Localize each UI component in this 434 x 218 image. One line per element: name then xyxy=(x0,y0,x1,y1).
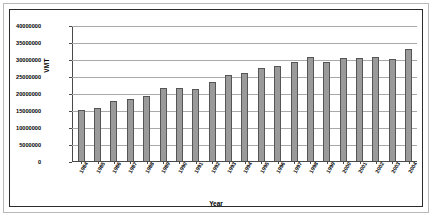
bar xyxy=(127,99,134,161)
bar-slot xyxy=(253,26,269,161)
bar xyxy=(225,75,232,161)
bar-slot xyxy=(188,26,204,161)
x-tick-label: 1988 xyxy=(144,161,155,174)
y-tick-label: 5000000 xyxy=(0,142,41,148)
bar-slot xyxy=(351,26,367,161)
bar-slot xyxy=(270,26,286,161)
bar-slot xyxy=(286,26,302,161)
x-axis-tick-labels: 1984198519861987198819891990199119921993… xyxy=(73,164,418,198)
bar xyxy=(241,73,248,161)
y-tick-label: 40000000 xyxy=(0,23,41,29)
bar xyxy=(356,58,363,161)
x-tick-label: 1985 xyxy=(95,161,106,174)
bar-slot xyxy=(139,26,155,161)
x-label-slot: 1986 xyxy=(106,164,122,198)
y-tick-mark xyxy=(69,128,72,129)
bar xyxy=(176,88,183,161)
bar-series xyxy=(73,26,417,161)
bar xyxy=(209,82,216,161)
bar-slot xyxy=(204,26,220,161)
bar xyxy=(372,57,379,161)
y-tick-mark xyxy=(69,162,72,163)
bar-slot xyxy=(302,26,318,161)
bar-slot xyxy=(171,26,187,161)
bar-slot xyxy=(155,26,171,161)
bar xyxy=(340,58,347,161)
x-label-slot: 2001 xyxy=(352,164,368,198)
x-label-slot: 1984 xyxy=(73,164,89,198)
bar-slot xyxy=(106,26,122,161)
bar xyxy=(258,68,265,161)
y-tick-mark xyxy=(69,94,72,95)
x-label-slot: 1993 xyxy=(221,164,237,198)
bar xyxy=(389,59,396,161)
bar-slot xyxy=(220,26,236,161)
x-label-slot: 1990 xyxy=(172,164,188,198)
bar xyxy=(307,57,314,161)
y-tick-label: 30000000 xyxy=(0,57,41,63)
x-tick-label: 1989 xyxy=(160,161,171,174)
bar-slot xyxy=(401,26,417,161)
bar-slot xyxy=(319,26,335,161)
bar-slot xyxy=(73,26,89,161)
y-tick-label: 10000000 xyxy=(0,125,41,131)
x-label-slot: 2003 xyxy=(385,164,401,198)
x-label-slot: 1991 xyxy=(188,164,204,198)
chart-outer-frame: VMT 400000003500000030000000250000002000… xyxy=(3,3,429,213)
y-tick-mark xyxy=(69,145,72,146)
bar xyxy=(405,49,412,161)
y-tick-mark xyxy=(69,77,72,78)
bar-slot xyxy=(237,26,253,161)
x-label-slot: 2004 xyxy=(401,164,417,198)
bar-slot xyxy=(335,26,351,161)
y-tick-mark xyxy=(69,60,72,61)
x-tick-label: 1986 xyxy=(111,161,122,174)
x-tick-label: 1990 xyxy=(177,161,188,174)
x-tick-label: 1984 xyxy=(78,161,89,174)
bar xyxy=(94,108,101,161)
bar-slot xyxy=(368,26,384,161)
y-tick-label: 20000000 xyxy=(0,91,41,97)
x-label-slot: 1985 xyxy=(89,164,105,198)
y-tick-label: 0 xyxy=(0,159,41,165)
x-label-slot: 2002 xyxy=(369,164,385,198)
x-label-slot: 1987 xyxy=(122,164,138,198)
x-tick-label: 1987 xyxy=(127,161,138,174)
bar-slot xyxy=(384,26,400,161)
bar xyxy=(323,62,330,161)
bar xyxy=(192,89,199,161)
y-tick-label: 35000000 xyxy=(0,40,41,46)
bar xyxy=(78,110,85,161)
x-label-slot: 1988 xyxy=(139,164,155,198)
x-label-slot: 1995 xyxy=(254,164,270,198)
y-tick-mark xyxy=(69,111,72,112)
chart-inner-frame: VMT 400000003500000030000000250000002000… xyxy=(9,9,423,207)
bar xyxy=(110,101,117,161)
bar xyxy=(143,96,150,161)
x-axis-title: Year xyxy=(10,200,422,207)
x-label-slot: 1992 xyxy=(204,164,220,198)
x-label-slot: 1998 xyxy=(303,164,319,198)
x-label-slot: 1999 xyxy=(319,164,335,198)
bar xyxy=(291,62,298,161)
y-tick-label: 15000000 xyxy=(0,108,41,114)
plot-area: 4000000035000000300000002500000020000000… xyxy=(72,26,417,162)
bar-slot xyxy=(89,26,105,161)
x-label-slot: 2000 xyxy=(336,164,352,198)
x-label-slot: 1996 xyxy=(270,164,286,198)
bar xyxy=(274,66,281,161)
x-label-slot: 1989 xyxy=(155,164,171,198)
y-tick-mark xyxy=(69,26,72,27)
x-label-slot: 1997 xyxy=(286,164,302,198)
y-tick-label: 25000000 xyxy=(0,74,41,80)
x-label-slot: 1994 xyxy=(237,164,253,198)
bar-slot xyxy=(122,26,138,161)
y-axis-title: VMT xyxy=(43,36,50,96)
bar xyxy=(160,88,167,161)
y-tick-mark xyxy=(69,43,72,44)
